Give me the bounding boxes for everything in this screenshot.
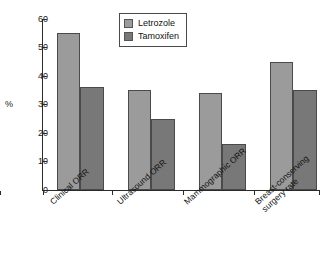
legend-entry-tamoxifen[interactable]: Tamoxifen (124, 30, 179, 43)
x-tick-mark-end (319, 191, 320, 195)
legend-swatch-icon-letrozole (124, 19, 133, 28)
bar-ultrasound-orr-tamoxifen (151, 119, 175, 190)
legend-label-letrozole: Letrozole (138, 19, 175, 28)
x-tick-mark-2 (0, 191, 1, 195)
x-tick-mark-1 (112, 191, 113, 195)
legend-label-tamoxifen: Tamoxifen (138, 32, 179, 41)
legend: Letrozole Tamoxifen (119, 13, 187, 47)
legend-entry-letrozole[interactable]: Letrozole (124, 17, 179, 30)
y-axis-title: % (5, 99, 13, 109)
x-tick-mark-3 (254, 191, 255, 195)
bar-chart: % 60 50 40 30 20 10 0 Clinical ORR Ultra… (0, 0, 329, 280)
x-tick-mark-2b (183, 191, 184, 195)
legend-swatch-icon-tamoxifen (124, 32, 133, 41)
bar-clinical-orr-letrozole (57, 33, 80, 190)
x-tick-mark-start (43, 191, 44, 195)
